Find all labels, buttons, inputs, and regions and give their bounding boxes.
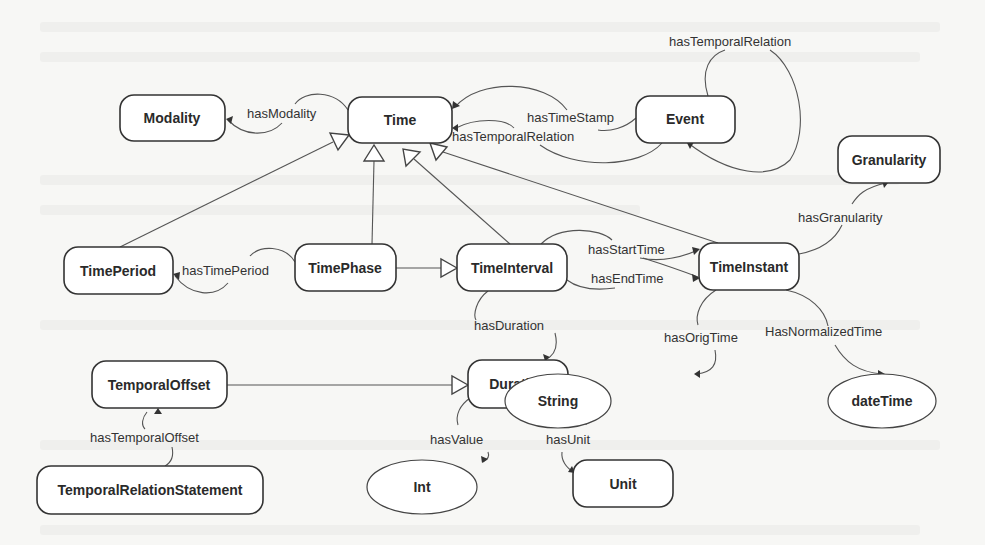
node-label: Time	[384, 112, 417, 128]
node-modality[interactable]: Modality	[120, 95, 225, 141]
edge-label-hasstarttime: hasStartTime	[588, 242, 665, 257]
edge-hastemporalrelation-time-tail	[540, 143, 662, 163]
edge-label-hasunit: hasUnit	[546, 432, 590, 447]
edge-label-hastemporalrelation-time: hasTemporalRelation	[452, 129, 574, 144]
arrowhead-icon	[452, 101, 460, 109]
edge-label-hastemporaloffset: hasTemporalOffset	[90, 430, 199, 445]
inheritance-arrow-icon	[364, 145, 384, 161]
node-timephase[interactable]: TimePhase	[295, 244, 396, 291]
edge-label-hasorigtime: hasOrigTime	[664, 330, 738, 345]
node-label: TimeInstant	[710, 259, 789, 275]
edge-label-hastimestamp: hasTimeStamp	[527, 110, 614, 125]
node-event[interactable]: Event	[636, 96, 735, 143]
arrowhead-icon	[173, 272, 180, 280]
edge-hastimestamp	[455, 86, 567, 110]
arrowhead-icon	[226, 116, 233, 124]
node-timeinstant[interactable]: TimeInstant	[699, 243, 799, 290]
node-timeinterval[interactable]: TimeInterval	[457, 244, 567, 291]
edge-label-hasendtime: hasEndTime	[591, 271, 664, 286]
node-label: TimePeriod	[80, 263, 156, 279]
edge-label-hastemporalrelation-event: hasTemporalRelation	[669, 34, 791, 49]
node-label: TemporalRelationStatement	[58, 482, 243, 498]
node-label: dateTime	[851, 393, 912, 409]
edge-timeinstant-to-time	[443, 152, 718, 243]
node-datetime[interactable]: dateTime	[828, 374, 936, 428]
inheritance-arrow-icon	[430, 143, 447, 160]
node-time[interactable]: Time	[348, 97, 452, 143]
node-label: TemporalOffset	[108, 377, 211, 393]
arrowhead-icon	[694, 370, 700, 378]
edge-label-hastimeperiod: hasTimePeriod	[182, 263, 269, 278]
edge-timeinterval-to-time	[414, 159, 510, 244]
node-label: TimeInterval	[471, 260, 553, 276]
node-label: TimePhase	[308, 260, 382, 276]
edge-label-hasvalue: hasValue	[430, 432, 483, 447]
edge-label-hasduration: hasDuration	[474, 318, 544, 333]
node-granularity[interactable]: Granularity	[838, 136, 940, 183]
inheritance-arrow-icon	[330, 133, 349, 150]
node-string[interactable]: String	[505, 374, 611, 428]
edge-timephase-to-time	[372, 161, 374, 244]
ontology-diagram: Modality Time Event Granularity TimePeri…	[0, 0, 985, 545]
node-temporalrelationstatement[interactable]: TemporalRelationStatement	[37, 466, 263, 514]
node-int[interactable]: Int	[367, 460, 477, 514]
inheritance-arrow-icon	[452, 376, 468, 394]
node-label: String	[538, 393, 578, 409]
edge-label-hasmodality: hasModality	[247, 106, 317, 121]
inheritance-arrow-icon	[403, 149, 420, 166]
edge-label-hasgranularity: hasGranularity	[798, 210, 883, 225]
inheritance-arrow-icon	[441, 259, 457, 277]
edge-timeperiod-to-time	[120, 142, 333, 247]
node-timeperiod[interactable]: TimePeriod	[64, 247, 173, 294]
node-label: Modality	[144, 110, 201, 126]
edge-hastemporalrelation-time	[456, 121, 514, 129]
edge-label-hasnormalizedtime: HasNormalizedTime	[765, 324, 882, 339]
node-label: Unit	[609, 476, 637, 492]
arrowhead-icon	[154, 408, 162, 414]
node-label: Int	[413, 479, 430, 495]
node-label: Event	[666, 111, 704, 127]
arrowhead-icon	[481, 456, 488, 463]
node-label: Granularity	[852, 152, 927, 168]
node-unit[interactable]: Unit	[573, 460, 673, 507]
node-temporaloffset[interactable]: TemporalOffset	[92, 361, 227, 408]
